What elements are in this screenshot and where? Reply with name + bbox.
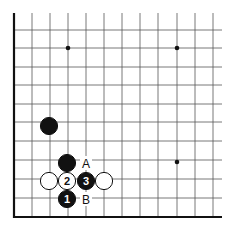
- black-stone-icon: [40, 117, 57, 134]
- white-stone-2: 2: [58, 172, 75, 189]
- move-number: 3: [83, 175, 89, 187]
- star-point-icon: [66, 46, 71, 51]
- move-number: 1: [64, 193, 70, 205]
- star-point-icon: [175, 160, 180, 165]
- stones-layer: 231: [40, 117, 112, 207]
- point-b-label: B: [82, 193, 90, 207]
- black-stone-icon: [58, 154, 75, 171]
- star-points: [66, 46, 180, 165]
- white-stone-icon: [95, 172, 112, 189]
- point-a-label: A: [82, 157, 90, 171]
- black-stone-1: 1: [58, 190, 75, 207]
- star-point-icon: [175, 46, 180, 51]
- white-stone-left: [40, 172, 57, 189]
- black-stone-a: [58, 154, 75, 171]
- go-board: 231 AB: [0, 0, 239, 236]
- black-stone-upper: [40, 117, 57, 134]
- black-stone-3: 3: [77, 172, 94, 189]
- move-number: 2: [64, 175, 70, 187]
- white-stone-icon: [40, 172, 57, 189]
- white-stone-right: [95, 172, 112, 189]
